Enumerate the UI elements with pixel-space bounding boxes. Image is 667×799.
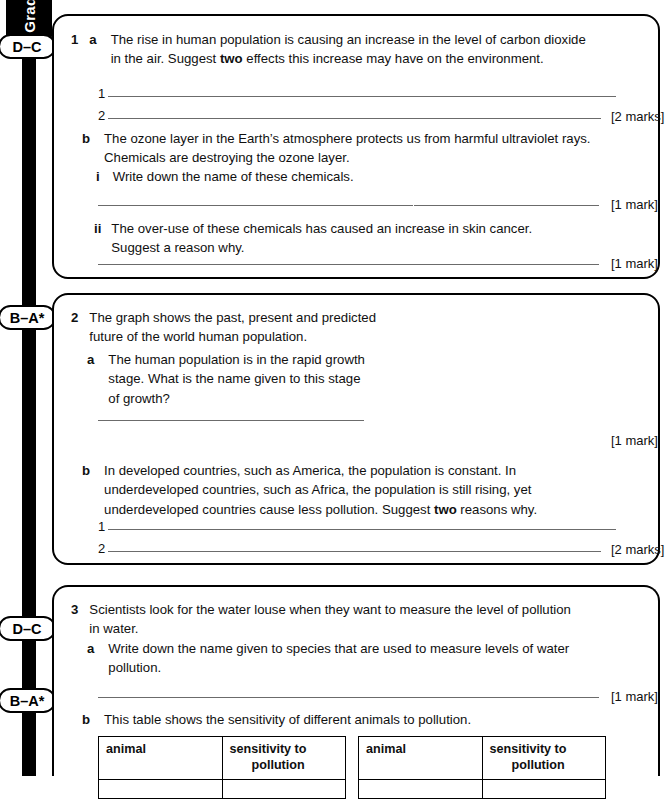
marks-label: [2 marks]: [611, 110, 664, 124]
question-text-line: The graph shows the past, present and pr…: [89, 310, 376, 325]
grades-tab-label: Grades: [21, 0, 38, 33]
question-1-part-b-ii: ii The over-use of these chemicals has c…: [94, 219, 591, 258]
question-text-line: Write down the name of these chemicals.: [113, 167, 354, 186]
question-text-line: The ozone layer in the Earth’s atmospher…: [104, 131, 590, 146]
marks-label: [2 marks]: [611, 543, 664, 557]
question-2-part-a: a The human population is in the rapid g…: [87, 350, 398, 408]
question-text-line: pollution.: [108, 660, 161, 675]
answer-line[interactable]: [108, 551, 601, 552]
answer-line[interactable]: [98, 264, 599, 265]
grade-rail: [22, 0, 36, 776]
question-3-part-a: a Write down the name given to species t…: [87, 639, 608, 678]
question-text-line: Chemicals are destroying the ozone layer…: [104, 150, 350, 165]
question-text-line: This table shows the sensitivity of diff…: [104, 710, 471, 729]
answer-number: 1: [98, 87, 105, 101]
answer-line[interactable]: [108, 118, 601, 119]
question-2-stem: 2 The graph shows the past, present and …: [71, 308, 399, 347]
table-header-animal: animal: [99, 737, 223, 780]
sensitivity-table-right: animal sensitivity topollution: [358, 736, 606, 799]
question-1-part-b: b The ozone layer in the Earth’s atmosph…: [82, 129, 624, 168]
question-text-line: underdeveloped countries cause less poll…: [104, 502, 537, 517]
part-letter: b: [82, 461, 90, 480]
answer-line[interactable]: [98, 697, 599, 698]
part-letter: a: [89, 30, 96, 49]
table-header-row: animal sensitivity topollution: [359, 737, 606, 780]
question-1-part-b-i: i Write down the name of these chemicals…: [96, 167, 354, 186]
table-row: [359, 780, 606, 799]
answer-number: 2: [98, 542, 105, 556]
question-text-line: future of the world human population.: [89, 329, 307, 344]
table-cell-animal: [359, 780, 483, 799]
question-3-part-b: b This table shows the sensitivity of di…: [82, 710, 471, 729]
question-number: 1: [71, 30, 78, 49]
table-row: [99, 780, 346, 799]
answer-line[interactable]: [238, 205, 413, 206]
question-box-3: 3 Scientists look for the water louse wh…: [52, 585, 660, 776]
answer-line[interactable]: [98, 420, 364, 421]
part-letter: a: [87, 350, 94, 369]
question-text-line: The over-use of these chemicals has caus…: [111, 221, 532, 236]
table-cell-sensitivity: [222, 780, 346, 799]
grade-badge-4: B–A*: [0, 688, 56, 713]
question-text-line: In developed countries, such as America,…: [104, 463, 516, 478]
answer-line[interactable]: [414, 205, 599, 206]
question-text-line: Write down the name given to species tha…: [108, 641, 569, 656]
answer-line[interactable]: [108, 96, 616, 97]
marks-label: [1 mark]: [611, 198, 658, 212]
question-text-line: of growth?: [108, 391, 170, 406]
question-text-line: underdeveloped countries, such as Africa…: [104, 482, 531, 497]
question-box-1: 1 a The rise in human population is caus…: [52, 14, 660, 279]
answer-number: 2: [98, 109, 105, 123]
question-text-line: Scientists look for the water louse when…: [89, 602, 571, 617]
question-text-line: stage. What is the name given to this st…: [108, 371, 360, 386]
part-letter: a: [87, 639, 94, 658]
grade-badge-3: D–C: [0, 616, 56, 641]
marks-label: [1 mark]: [611, 257, 658, 271]
table-cell-sensitivity: [482, 780, 606, 799]
answer-line[interactable]: [98, 205, 238, 206]
answer-number: 1: [98, 520, 105, 534]
question-text-line: The human population is in the rapid gro…: [108, 352, 365, 367]
answer-line[interactable]: [108, 529, 616, 530]
question-1-part-a: 1 a The rise in human population is caus…: [71, 30, 621, 69]
question-text-line: The rise in human population is causing …: [111, 32, 586, 47]
question-text-line: in the air. Suggest two effects this inc…: [111, 51, 544, 66]
question-2-part-b: b In developed countries, such as Americ…: [82, 461, 614, 519]
sensitivity-table-left: animal sensitivity topollution: [98, 736, 346, 799]
table-header-animal: animal: [359, 737, 483, 780]
question-number: 2: [71, 308, 78, 327]
part-letter: b: [82, 710, 90, 729]
table-header-sensitivity: sensitivity topollution: [482, 737, 606, 780]
table-header-sensitivity: sensitivity topollution: [222, 737, 346, 780]
question-text-line: in water.: [89, 621, 138, 636]
table-cell-animal: [99, 780, 223, 799]
marks-label: [1 mark]: [611, 690, 658, 704]
table-header-row: animal sensitivity topollution: [99, 737, 346, 780]
subpart-numeral: i: [96, 167, 100, 186]
marks-label: [1 mark]: [611, 434, 658, 448]
grade-badge-1: D–C: [0, 34, 56, 59]
question-box-2: 2 The graph shows the past, present and …: [52, 293, 660, 565]
part-letter: b: [82, 129, 90, 148]
subpart-numeral: ii: [94, 219, 101, 238]
grade-badge-2: B–A*: [0, 305, 56, 330]
question-text-line: Suggest a reason why.: [111, 240, 244, 255]
question-3-stem: 3 Scientists look for the water louse wh…: [71, 600, 619, 639]
question-number: 3: [71, 600, 78, 619]
